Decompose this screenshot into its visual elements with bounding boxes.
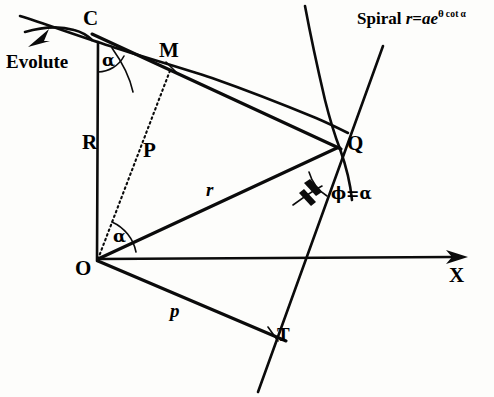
label-P: P	[143, 140, 156, 161]
label-p: p	[170, 301, 180, 320]
point-label-M: M	[159, 40, 179, 61]
spiral-equation-exponent: θcotα	[438, 7, 466, 19]
segment-p-OT	[98, 261, 286, 341]
segment-C-to-Q	[92, 34, 341, 149]
exponent-theta: θ	[438, 7, 444, 19]
angle-label-alpha-at-O: α	[113, 228, 126, 245]
spiral-equation-equals: =	[412, 9, 422, 28]
axis-label-x: X	[449, 265, 464, 286]
point-label-C: C	[83, 8, 98, 29]
figure-canvas	[0, 0, 494, 397]
point-label-Q: Q	[347, 133, 363, 154]
spiral-equation: Spiral r=aeθcotα	[357, 8, 466, 27]
evolute-arc	[20, 16, 348, 133]
angle-curl-at-C	[112, 48, 133, 92]
angle-label-phi-equals-alpha: ϕ=α	[331, 186, 372, 202]
spiral-equation-prefix: Spiral	[357, 9, 406, 28]
point-label-T: T	[277, 325, 290, 344]
angle-label-alpha-at-C: α	[102, 52, 115, 69]
point-label-O: O	[75, 258, 91, 279]
label-R: R	[82, 132, 97, 153]
evolute-label: Evolute	[6, 52, 68, 71]
exponent-alpha: α	[461, 9, 467, 19]
x-axis-line	[98, 257, 452, 259]
evolute-arrow-head	[28, 29, 50, 47]
spiral-geometry-figure: Evolute C M O Q T X R P r p α α ϕ=α Spir…	[0, 0, 494, 397]
exponent-cot: cot	[446, 9, 459, 19]
spiral-curve	[305, 6, 352, 200]
spiral-equation-e: e	[430, 9, 438, 28]
label-r: r	[206, 180, 213, 199]
